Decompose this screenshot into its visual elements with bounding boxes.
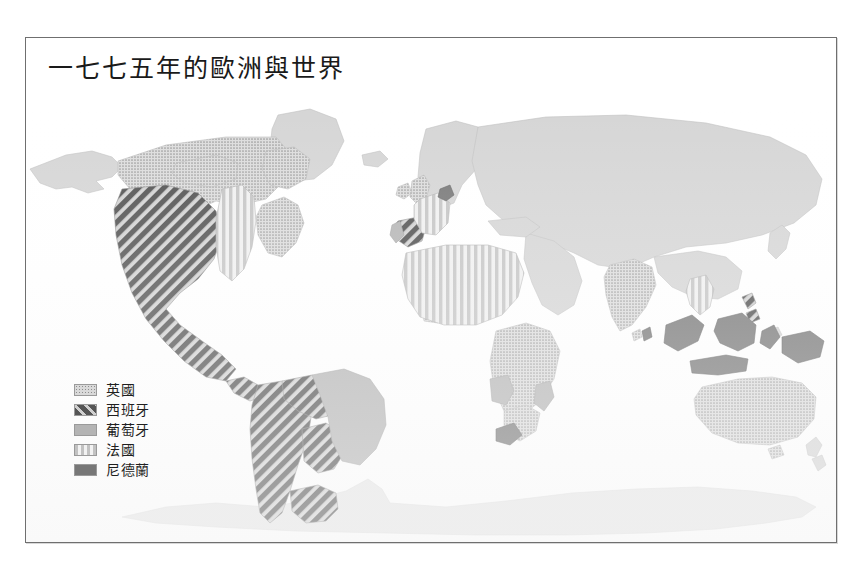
map-legend: 英國 西班牙 葡萄牙 法國 尼德蘭 bbox=[74, 381, 150, 481]
legend-swatch-netherlands-icon bbox=[74, 464, 97, 476]
figure-page: 一七七五年的歐洲與世界 bbox=[0, 0, 855, 562]
legend-item-france[interactable]: 法國 bbox=[74, 441, 150, 459]
map-plate: 一七七五年的歐洲與世界 bbox=[25, 37, 837, 543]
legend-label-france: 法國 bbox=[106, 443, 135, 457]
legend-swatch-spain-icon bbox=[74, 404, 97, 416]
legend-label-netherlands: 尼德蘭 bbox=[106, 463, 150, 477]
page-title: 一七七五年的歐洲與世界 bbox=[48, 54, 345, 84]
legend-item-netherlands[interactable]: 尼德蘭 bbox=[74, 461, 150, 479]
legend-item-britain[interactable]: 英國 bbox=[74, 381, 150, 399]
legend-label-britain: 英國 bbox=[106, 383, 135, 397]
legend-swatch-portugal-icon bbox=[74, 424, 97, 436]
legend-label-portugal: 葡萄牙 bbox=[106, 423, 150, 437]
legend-swatch-britain-icon bbox=[74, 384, 97, 396]
legend-item-portugal[interactable]: 葡萄牙 bbox=[74, 421, 150, 439]
legend-swatch-france-icon bbox=[74, 444, 97, 456]
legend-label-spain: 西班牙 bbox=[106, 403, 150, 417]
legend-item-spain[interactable]: 西班牙 bbox=[74, 401, 150, 419]
